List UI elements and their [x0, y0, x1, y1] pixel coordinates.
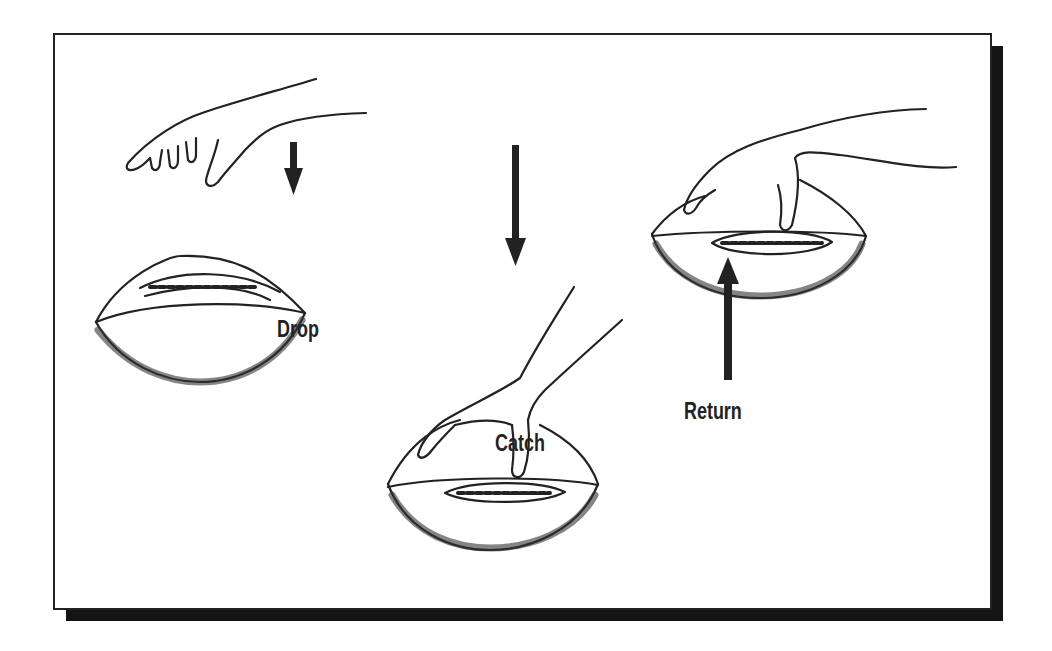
illustration [0, 0, 1052, 651]
arrow-up-icon [717, 257, 739, 380]
label-drop: Drop [277, 316, 319, 343]
label-catch: Catch [495, 430, 545, 457]
return-hand-icon [684, 109, 956, 230]
arrow-down-icon-large [505, 145, 526, 266]
drop-hand-icon [127, 79, 366, 186]
label-return: Return [684, 398, 742, 425]
football-drop-icon [96, 256, 305, 382]
arrow-down-icon-small [284, 142, 303, 195]
